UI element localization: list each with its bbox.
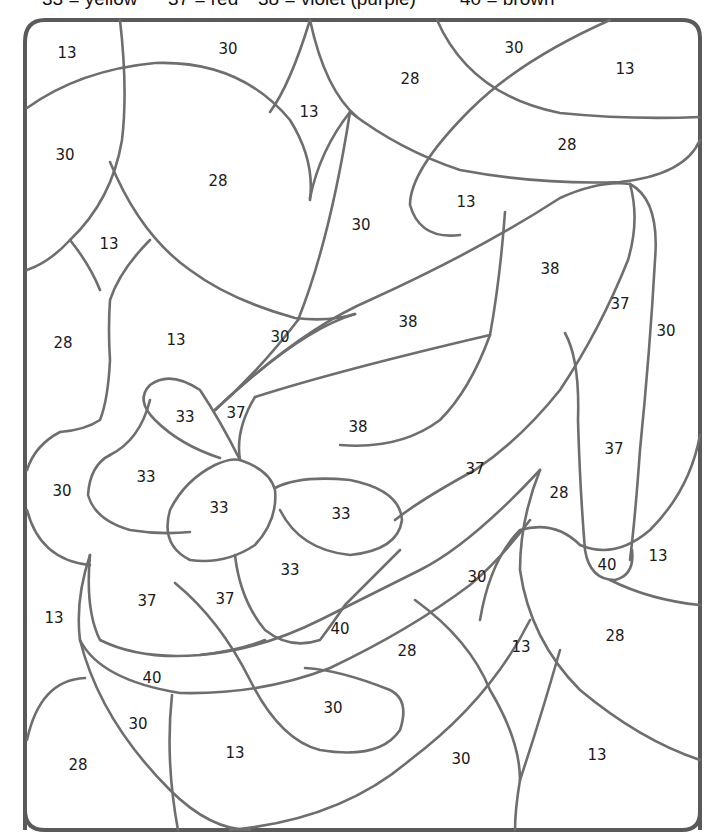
region-label: 13 xyxy=(57,44,76,62)
region-label: 38 xyxy=(398,313,417,331)
region-label: 13 xyxy=(225,744,244,762)
region-label: 33 xyxy=(175,408,194,426)
region-label: 28 xyxy=(557,136,576,154)
region-label: 28 xyxy=(208,172,227,190)
region-label: 28 xyxy=(68,756,87,774)
region-label: 30 xyxy=(351,216,370,234)
region-label: 38 xyxy=(540,260,559,278)
region-label: 37 xyxy=(137,592,156,610)
region-label: 13 xyxy=(615,60,634,78)
region-label: 28 xyxy=(549,484,568,502)
region-label: 28 xyxy=(53,334,72,352)
coloring-page: 13 30 30 13 28 13 30 28 28 13 30 13 38 3… xyxy=(0,0,707,836)
region-label: 13 xyxy=(456,193,475,211)
region-label: 37 xyxy=(604,440,623,458)
region-label: 13 xyxy=(299,103,318,121)
region-label: 40 xyxy=(330,620,349,638)
region-label: 30 xyxy=(504,39,523,57)
region-label: 37 xyxy=(610,295,629,313)
region-label: 28 xyxy=(400,70,419,88)
region-label: 30 xyxy=(323,699,342,717)
region-label: 13 xyxy=(44,609,63,627)
region-label: 30 xyxy=(467,568,486,586)
region-label: 30 xyxy=(656,322,675,340)
region-label: 13 xyxy=(511,638,530,656)
number-labels: 13 30 30 13 28 13 30 28 28 13 30 13 38 3… xyxy=(0,0,707,836)
region-label: 13 xyxy=(99,235,118,253)
region-label: 13 xyxy=(166,331,185,349)
region-label: 33 xyxy=(136,468,155,486)
region-label: 30 xyxy=(270,328,289,346)
region-label: 37 xyxy=(465,460,484,478)
region-label: 30 xyxy=(55,146,74,164)
region-label: 38 xyxy=(348,418,367,436)
region-label: 33 xyxy=(280,561,299,579)
region-label: 13 xyxy=(587,746,606,764)
region-label: 33 xyxy=(331,505,350,523)
region-label: 40 xyxy=(597,556,616,574)
region-label: 40 xyxy=(142,669,161,687)
region-label: 37 xyxy=(226,404,245,422)
region-label: 33 xyxy=(209,499,228,517)
region-label: 30 xyxy=(218,40,237,58)
region-label: 30 xyxy=(451,750,470,768)
region-label: 28 xyxy=(605,627,624,645)
region-label: 28 xyxy=(397,642,416,660)
region-label: 37 xyxy=(215,590,234,608)
region-label: 30 xyxy=(52,482,71,500)
region-label: 30 xyxy=(128,715,147,733)
region-label: 13 xyxy=(648,547,667,565)
